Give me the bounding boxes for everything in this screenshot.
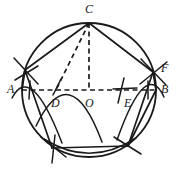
point-label-D: D bbox=[51, 97, 60, 109]
geometry-diagram-canvas bbox=[0, 0, 180, 171]
point-label-F: F bbox=[161, 62, 168, 74]
chord-left-vertex-to-bottom-left bbox=[25, 70, 52, 148]
tick-bottom-left-vertical bbox=[52, 135, 55, 163]
point-label-B: B bbox=[161, 83, 168, 95]
tick-at-E-horizontal bbox=[113, 88, 137, 89]
geometry-figure: A B C D E F O bbox=[0, 0, 180, 171]
point-label-O: O bbox=[85, 97, 94, 109]
point-label-E: E bbox=[124, 97, 131, 109]
tick-at-A-vertical bbox=[29, 81, 30, 99]
tick-at-D bbox=[53, 79, 61, 95]
chord-B-to-bottom-right bbox=[128, 90, 156, 146]
arc-mark-left-upper bbox=[14, 58, 38, 84]
chord-upper-left-to-C bbox=[25, 23, 89, 70]
point-label-C: C bbox=[85, 3, 93, 15]
tick-mark-group bbox=[29, 78, 148, 163]
point-label-A: A bbox=[7, 83, 14, 95]
